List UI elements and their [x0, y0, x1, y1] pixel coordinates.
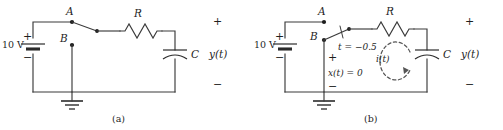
source-minus-sign: −	[23, 51, 32, 64]
node-b-label: B	[309, 30, 318, 42]
source-voltage-label: 10 V	[254, 39, 276, 50]
output-label: y(t)	[460, 48, 479, 60]
capacitor-curved-plate	[163, 55, 187, 59]
output-label: y(t)	[208, 48, 227, 60]
circuit-panel-b: 10 V + − A B t = −0.5 R C + x(t) = 0 −	[252, 0, 503, 130]
input-label: x(t) = 0	[328, 68, 363, 78]
circuit-figure: 10 V + − A B R C + y(t) − (	[0, 0, 503, 130]
resistor-symbol	[372, 22, 414, 36]
node-a-dot	[322, 20, 326, 24]
output-plus-sign: +	[213, 15, 222, 28]
capacitor-label: C	[443, 48, 451, 60]
node-a-label: A	[65, 5, 74, 17]
wire-resistor-to-capacitor	[414, 29, 427, 50]
source-plus-sign: +	[275, 30, 284, 43]
resistor-label: R	[385, 5, 394, 17]
switch-time-label: t = −0.5	[338, 42, 377, 52]
input-minus-sign: −	[328, 80, 337, 93]
node-a-label: A	[317, 5, 326, 17]
circuit-panel-a: 10 V + − A B R C + y(t) − (	[0, 0, 252, 130]
source-plus-sign: +	[23, 30, 32, 43]
panel-b-caption: (b)	[364, 113, 378, 124]
switch-blade[interactable]	[324, 29, 349, 40]
node-b-label: B	[59, 32, 68, 44]
input-plus-sign: +	[328, 51, 337, 64]
wire-source-to-node-a	[285, 22, 324, 38]
output-plus-sign: +	[465, 15, 474, 28]
capacitor-curved-plate	[415, 55, 439, 59]
panel-a-caption: (a)	[112, 113, 125, 124]
source-minus-sign: −	[275, 51, 284, 64]
wire-resistor-to-capacitor	[162, 31, 175, 50]
current-label: i(t)	[376, 54, 390, 64]
switch-blade[interactable]	[72, 22, 97, 31]
capacitor-label: C	[191, 48, 199, 60]
resistor-label: R	[133, 7, 142, 19]
output-minus-sign: −	[465, 78, 474, 91]
source-voltage-label: 10 V	[2, 39, 24, 50]
output-minus-sign: −	[213, 78, 222, 91]
resistor-symbol	[120, 24, 162, 38]
